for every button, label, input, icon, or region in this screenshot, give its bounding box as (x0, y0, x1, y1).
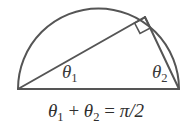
geometry-figure: θ1 θ2 θ1 + θ2 = π/2 (0, 0, 192, 133)
angle-label-theta1: θ1 (62, 62, 78, 81)
equation-caption: θ1 + θ2 = π/2 (0, 100, 192, 122)
angle-label-theta2: θ2 (152, 62, 168, 81)
theta2-subscript: 2 (161, 71, 167, 85)
theta2-symbol: θ (152, 61, 161, 82)
equation-result-value: π/2 (120, 100, 144, 121)
chord-long-theta1 (18, 17, 145, 89)
theta1-symbol: θ (62, 61, 71, 82)
equation-equals-operator: = (99, 100, 119, 121)
equation-term2-symbol: θ (84, 100, 93, 121)
equation-term1-symbol: θ (48, 100, 57, 121)
theta1-subscript: 1 (71, 71, 77, 85)
equation-plus-operator: + (64, 100, 84, 121)
